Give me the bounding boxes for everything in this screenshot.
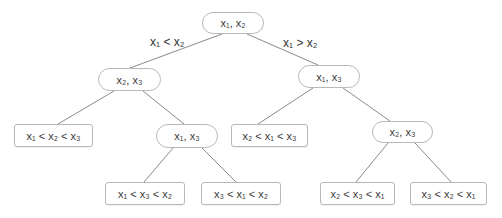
leaf-x1-x3-x2: x₁ < x₃ < x₂ [105,182,185,205]
leaf-x3-x2-x1: x₃ < x₂ < x₁ [410,182,487,205]
leaf-label: x₁ < x₂ < x₃ [26,130,80,142]
leaf-x2-x1-x3: x₂ < x₁ < x₃ [231,124,308,147]
node-label: x₂, x₃ [390,126,416,138]
edge-lr-lrl [144,148,173,182]
leaf-label: x₁ < x₃ < x₂ [118,188,172,200]
node-label: x₁, x₃ [316,71,341,83]
edge-label-right: x₁ > x₂ [283,36,317,50]
node-left-right: x₁, x₃ [156,124,218,148]
edge-r-rl [258,88,313,124]
edge-label-left: x₁ < x₂ [150,35,184,49]
node-left: x₂, x₃ [98,68,161,91]
leaf-x2-x3-x1: x₂ < x₃ < x₁ [320,182,395,205]
edge-l-lr [143,91,184,124]
node-label: x₁, x₃ [174,130,199,142]
edge-lr-lrr [202,148,236,182]
node-root: x₁, x₂ [202,12,264,34]
leaf-x3-x1-x2: x₃ < x₁ < x₂ [201,182,281,205]
leaf-label: x₂ < x₁ < x₃ [242,130,296,142]
leaf-label: x₃ < x₁ < x₂ [214,188,268,200]
edge-l-ll [58,91,114,124]
node-label: x₁, x₂ [220,17,245,29]
node-right: x₁, x₃ [298,65,360,88]
edge-rr-rrr [415,143,451,182]
edge-rr-rrl [356,143,388,182]
leaf-x1-x2-x3: x₁ < x₂ < x₃ [14,124,93,147]
edge-r-rr [343,88,390,121]
leaf-label: x₃ < x₂ < x₁ [421,188,475,200]
node-right-right: x₂, x₃ [372,121,433,143]
leaf-label: x₂ < x₃ < x₁ [330,188,384,200]
node-label: x₂, x₃ [117,74,143,86]
